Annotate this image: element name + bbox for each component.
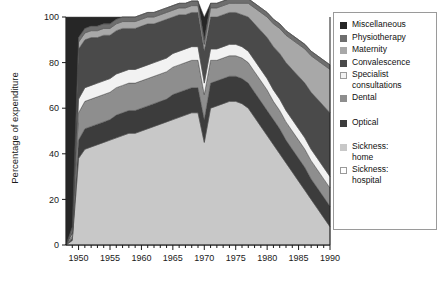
- legend-swatch-icon: [340, 167, 347, 174]
- legend-item: Sickness: home: [340, 141, 432, 162]
- legend-swatch-icon: [340, 60, 347, 67]
- chart-legend: MiscellaneousPhysiotherapyMaternityConva…: [333, 12, 437, 230]
- x-tick-label: 1950: [69, 253, 89, 263]
- legend-swatch-icon: [340, 72, 347, 79]
- legend-item: Maternity: [340, 44, 432, 55]
- x-tick-label: 1965: [163, 253, 183, 263]
- x-tick-label: 1960: [131, 253, 151, 263]
- legend-item: Specialist consultations: [340, 69, 432, 90]
- legend-item: Physiotherapy: [340, 32, 432, 43]
- legend-item-label: Physiotherapy: [352, 32, 406, 43]
- legend-item: Convalescence: [340, 57, 432, 68]
- y-tick-label: 0: [54, 240, 59, 250]
- x-tick-label: 1975: [226, 253, 246, 263]
- legend-item-label: Miscellaneous: [352, 19, 406, 30]
- x-tick-label: 1990: [320, 253, 340, 263]
- x-tick-label: 1955: [100, 253, 120, 263]
- legend-rows: MiscellaneousPhysiotherapyMaternityConva…: [340, 19, 432, 185]
- legend-item: Sickness: hospital: [340, 164, 432, 185]
- x-tick-label: 1970: [194, 253, 214, 263]
- x-tick-label: 1985: [289, 253, 309, 263]
- y-tick-label: 100: [44, 12, 59, 22]
- x-tick-label: 1980: [257, 253, 277, 263]
- legend-swatch-icon: [340, 35, 347, 42]
- y-tick-label: 20: [49, 195, 59, 205]
- y-tick-label: 60: [49, 103, 59, 113]
- legend-item-label: Dental: [352, 92, 377, 103]
- legend-item-label: Optical: [352, 117, 378, 128]
- legend-swatch-icon: [340, 120, 347, 127]
- legend-item-label: Convalescence: [352, 57, 410, 68]
- y-tick-label: 80: [49, 58, 59, 68]
- legend-swatch-icon: [340, 47, 347, 54]
- legend-item: Optical: [340, 117, 432, 128]
- y-tick-label: 40: [49, 149, 59, 159]
- legend-item-label: Sickness: home: [352, 141, 388, 162]
- legend-swatch-icon: [340, 95, 347, 102]
- legend-swatch-icon: [340, 22, 347, 29]
- chart-screenshot: 0204060801001950195519601965197019751980…: [0, 0, 444, 287]
- legend-item: Miscellaneous: [340, 19, 432, 30]
- legend-swatch-icon: [340, 144, 347, 151]
- legend-item-label: Sickness: hospital: [352, 164, 388, 185]
- legend-item-label: Specialist consultations: [352, 69, 402, 90]
- y-axis-title: Percentage of expenditure: [9, 72, 20, 183]
- area-series-group: [66, 0, 330, 245]
- legend-item-label: Maternity: [352, 44, 387, 55]
- legend-item: Dental: [340, 92, 432, 103]
